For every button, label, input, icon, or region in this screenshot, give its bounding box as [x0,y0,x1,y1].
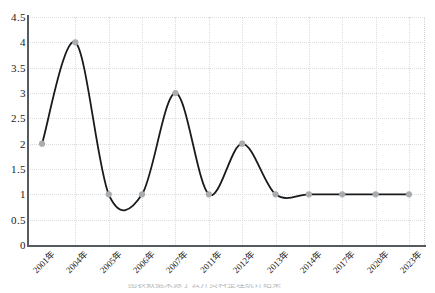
line-chart: 00.511.522.533.544.5 2001年2004年2005年2006… [0,0,435,293]
x-tick-label: 2014年 [287,249,324,286]
data-point-marker [339,191,345,197]
data-point-marker [239,141,245,147]
data-point-marker [373,191,379,197]
x-tick-label: 2011年 [187,249,224,286]
x-tick-label: 2007年 [154,249,191,286]
x-tick-label: 2006年 [120,249,157,286]
data-point-marker [39,141,45,147]
data-point-marker [206,191,212,197]
data-point-marker [72,39,78,45]
chart-caption-strip: 图表数据来源于公开资料整理统计结果 [0,284,435,293]
data-point-marker [172,90,178,96]
data-point-marker [106,191,112,197]
data-point-marker [406,191,412,197]
x-tick-label: 2004年 [54,249,91,286]
data-point-marker [272,191,278,197]
x-tick-label: 2013年 [254,249,291,286]
series-line [42,42,409,211]
x-tick-label: 2012年 [220,249,257,286]
x-tick-label: 2017年 [321,249,358,286]
x-tick-label: 2020年 [354,249,391,286]
data-point-marker [306,191,312,197]
x-tick-label: 2005年 [87,249,124,286]
data-point-marker [139,191,145,197]
x-tick-label: 2023年 [387,249,424,286]
chart-caption: 图表数据来源于公开资料整理统计结果 [128,284,281,289]
x-tick-label: 2001年 [20,249,57,286]
